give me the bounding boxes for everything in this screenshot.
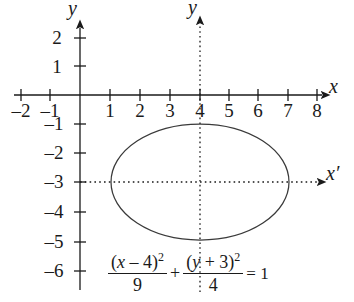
constant-4: 4: [143, 252, 152, 272]
x-tick-label-1: 1: [99, 101, 121, 120]
constant-3: 3: [219, 252, 228, 272]
y-axis: [74, 28, 86, 290]
y-tick-label-1: 1: [46, 57, 68, 76]
x-tick-label-2: 2: [129, 101, 151, 120]
x-tick-label-5: 5: [218, 101, 240, 120]
y-tick-label--4: –4: [40, 202, 68, 221]
x-tick-label-8: 8: [306, 101, 328, 120]
ellipse-equation: (x – 4)2 9 + (y + 3)2 4 = 1: [108, 252, 269, 295]
x-tick-label--2: –2: [9, 101, 33, 120]
variable-y: y: [192, 252, 200, 272]
equation-numerator-1: (x – 4)2: [108, 252, 167, 274]
y-tick-label--2: –2: [40, 143, 68, 162]
y-tick-label-2: 2: [46, 28, 68, 47]
x-tick-label-4: 4: [189, 101, 211, 120]
y-tick-label--1: –1: [40, 114, 68, 133]
equation-fraction-1: (x – 4)2 9: [108, 252, 167, 295]
y-prime-axis-label: y: [188, 0, 197, 17]
plus-operator: +: [167, 263, 183, 284]
exponent-1: 2: [158, 250, 164, 264]
equation-denominator-2: 4: [183, 274, 243, 295]
x-tick-label-6: 6: [247, 101, 269, 120]
variable-x: x: [117, 252, 125, 272]
ellipse-graph-figure: x y x′ y –2 –1 1 2 3 4 5 6 7 8 2 1 –1 –2…: [0, 0, 354, 302]
x-tick-label-3: 3: [159, 101, 181, 120]
equation-numerator-2: (y + 3)2: [183, 252, 243, 274]
exponent-2: 2: [234, 250, 240, 264]
y-tick-label--3: –3: [40, 172, 68, 191]
x-tick-label-7: 7: [277, 101, 299, 120]
equation-denominator-1: 9: [108, 274, 167, 295]
minus-operator: –: [125, 252, 143, 272]
equation-fraction-2: (y + 3)2 4: [183, 252, 243, 295]
y-tick-label--5: –5: [40, 232, 68, 251]
x-axis-label: x: [329, 76, 338, 96]
plus-inner-operator: +: [200, 252, 219, 272]
x-prime-axis-label: x′: [326, 163, 339, 183]
y-tick-label--6: –6: [40, 261, 68, 280]
equals-one: = 1: [243, 264, 268, 284]
y-axis-label: y: [68, 0, 77, 18]
